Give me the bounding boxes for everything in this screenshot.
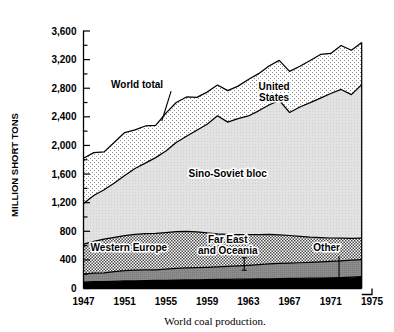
x-tick-label: 1955 (155, 296, 178, 307)
y-tick-label: 2,000 (51, 140, 76, 151)
annotation-label: World total (111, 79, 163, 90)
y-axis-title: MILLION SHORT TONS (9, 113, 20, 217)
annotation-world-total: World total (111, 79, 163, 90)
annotation-label: States (259, 92, 289, 103)
x-tick-label: 1963 (237, 296, 260, 307)
annotation-other: Other (313, 242, 340, 253)
y-tick-label: 1,200 (51, 197, 76, 208)
annotation-label: United (259, 81, 290, 92)
annotation-united-states: UnitedStates (259, 81, 290, 104)
y-tick-label: 1,600 (51, 169, 76, 180)
x-tick-label: 1975 (361, 296, 384, 307)
y-tick-label: 3,200 (51, 54, 76, 65)
annotation-label: and Oceania (198, 245, 258, 256)
world-coal-production-chart: 04008001,2001,6002,0002,4002,8003,2003,6… (0, 0, 394, 332)
x-tick-label: 1947 (72, 296, 95, 307)
y-tick-label: 800 (60, 226, 77, 237)
annotation-label: Western Europe (91, 242, 168, 253)
x-tick-label: 1959 (196, 296, 219, 307)
annotation-label: Other (313, 242, 340, 253)
annotation-label: Sino-Soviet bloc (189, 168, 268, 179)
y-tick-label: 2,400 (51, 111, 76, 122)
annotation-label: Far East (208, 234, 248, 245)
y-tick-label: 2,800 (51, 83, 76, 94)
y-tick-label: 400 (60, 254, 77, 265)
y-tick-label: 0 (71, 283, 77, 294)
annotation-western-europe: Western Europe (91, 242, 168, 253)
x-tick-label: 1971 (320, 296, 343, 307)
figure-caption: World coal production. (164, 315, 266, 327)
y-tick-label: 3,600 (51, 26, 76, 37)
x-tick-label: 1951 (114, 296, 137, 307)
x-tick-label: 1967 (278, 296, 301, 307)
chart-figure: 04008001,2001,6002,0002,4002,8003,2003,6… (0, 0, 394, 332)
annotation-sino-soviet-bloc: Sino-Soviet bloc (189, 168, 268, 179)
